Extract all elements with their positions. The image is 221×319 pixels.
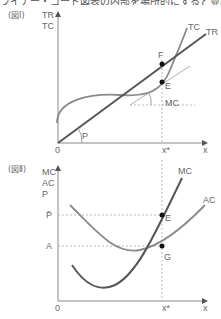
mc-angle-arc: [149, 93, 151, 105]
mc-curve-label: MC: [178, 166, 192, 176]
mc-curve: [72, 178, 182, 288]
mc-label-1: MC: [165, 98, 179, 108]
point-f-label: F: [158, 50, 164, 60]
xstar-label-1: x*: [162, 145, 171, 155]
y-axis-label-tr: TR: [42, 10, 54, 20]
figure-1: (図Ⅰ) TR TC 0 x x* MC TC TR P F E: [8, 10, 218, 155]
tc-curve-label: TC: [188, 22, 200, 32]
tr-line-label: TR: [206, 27, 218, 37]
point-f: [160, 62, 165, 67]
y-axis-label-ac: AC: [42, 178, 55, 188]
point-e-2: [160, 213, 165, 218]
ac-curve-label: AC: [203, 195, 216, 205]
point-g-label: G: [164, 252, 171, 262]
price-angle-label: P: [82, 131, 88, 141]
y-axis-label-p: P: [42, 189, 48, 199]
x-axis-label-1: x: [203, 145, 208, 155]
origin-label-1: 0: [55, 145, 60, 155]
figure-2: (図Ⅱ) MC AC P 0 x x* P̄ A AC MC E G: [8, 160, 216, 313]
figure-2-label: (図Ⅱ): [8, 165, 26, 174]
point-g: [160, 244, 165, 249]
point-e-1-label: E: [165, 81, 171, 91]
ac-curve: [70, 205, 205, 251]
point-e-2-label: E: [165, 213, 171, 223]
point-e-1: [160, 80, 165, 85]
a-label: A: [46, 241, 52, 251]
xstar-label-2: x*: [162, 303, 171, 313]
origin-label-2: 0: [55, 303, 60, 313]
pbar-label: P̄: [46, 210, 52, 220]
y-axis-label-mc: MC: [42, 167, 56, 177]
economics-diagram: (図Ⅰ) TR TC 0 x x* MC TC TR P F E (図: [0, 0, 221, 319]
figure-1-label: (図Ⅰ): [8, 11, 25, 20]
y-axis-label-tc: TC: [42, 21, 54, 31]
x-axis-label-2: x: [203, 303, 208, 313]
tr-line: [58, 34, 206, 143]
tc-curve: [57, 28, 187, 123]
